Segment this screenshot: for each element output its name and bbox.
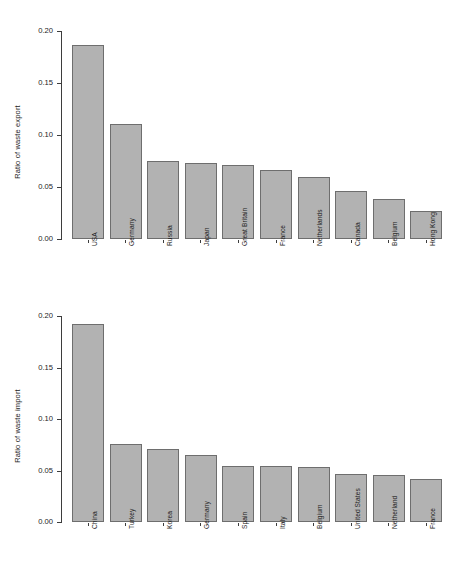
bar	[147, 161, 179, 239]
x-axis-tick	[388, 523, 389, 526]
y-axis-tick-label: 0.20	[27, 27, 53, 35]
bar	[335, 191, 367, 239]
y-axis-tick	[57, 522, 61, 523]
bar	[298, 467, 330, 522]
bar	[72, 324, 104, 522]
y-axis-tick	[57, 135, 61, 136]
chart-panel-waste-export: Ratio of waste export 0.000.050.100.150.…	[0, 0, 456, 290]
x-axis-tick	[125, 240, 126, 243]
y-axis-tick	[57, 239, 61, 240]
bar	[147, 449, 179, 522]
x-axis-tick	[313, 240, 314, 243]
x-axis-tick	[200, 523, 201, 526]
x-axis-tick	[125, 523, 126, 526]
plot-area-import: 0.000.050.100.150.20ChinaTurkeyKoreaGerm…	[0, 290, 456, 572]
x-axis-tick	[388, 240, 389, 243]
x-axis-tick-label: United States	[354, 488, 361, 529]
y-axis-tick-label: 0.00	[27, 235, 53, 243]
x-axis-tick-label: Netherlands	[316, 209, 323, 246]
x-axis-tick	[163, 240, 164, 243]
y-axis-tick	[57, 83, 61, 84]
bar	[410, 479, 442, 522]
y-axis-tick-label: 0.20	[27, 312, 53, 320]
x-axis-tick	[426, 523, 427, 526]
bar	[298, 177, 330, 239]
bar	[222, 165, 254, 239]
x-axis-tick	[276, 240, 277, 243]
x-axis-tick	[426, 240, 427, 243]
bar	[185, 163, 217, 239]
x-axis-tick	[313, 523, 314, 526]
y-axis-line	[61, 316, 62, 523]
x-axis-tick-label: France	[279, 225, 286, 246]
x-axis-tick	[276, 523, 277, 526]
bar	[222, 466, 254, 522]
bar	[185, 455, 217, 522]
x-axis-tick-label: Netherland	[391, 496, 398, 529]
y-axis-tick	[57, 471, 61, 472]
bar	[260, 466, 292, 522]
x-axis-tick-label: France	[429, 508, 436, 529]
chart-panel-waste-import: Ratio of waste import 0.000.050.100.150.…	[0, 290, 456, 572]
bar	[335, 474, 367, 522]
bar	[72, 45, 104, 239]
x-axis-tick	[351, 240, 352, 243]
y-axis-line	[61, 31, 62, 240]
plot-area-export: 0.000.050.100.150.20USAGermanyRussiaJapa…	[0, 0, 456, 290]
y-axis-tick-label: 0.05	[27, 467, 53, 475]
bar	[110, 444, 142, 522]
x-axis-tick-label: Great Britain	[241, 208, 248, 246]
x-axis-tick	[238, 523, 239, 526]
bar	[110, 124, 142, 239]
x-axis-tick	[351, 523, 352, 526]
y-axis-tick-label: 0.00	[27, 518, 53, 526]
x-axis-tick	[88, 240, 89, 243]
bar	[373, 199, 405, 239]
x-axis-tick-label: Russia	[166, 225, 173, 246]
y-axis-tick-label: 0.10	[27, 415, 53, 423]
chart-page: Ratio of waste export 0.000.050.100.150.…	[0, 0, 456, 572]
x-axis-tick	[200, 240, 201, 243]
y-axis-tick-label: 0.10	[27, 131, 53, 139]
y-axis-tick-label: 0.05	[27, 183, 53, 191]
x-axis-tick-label: Japan	[203, 228, 210, 246]
y-axis-tick-label: 0.15	[27, 79, 53, 87]
x-axis-tick-label: Hong Kong	[429, 212, 436, 246]
x-axis-tick	[163, 523, 164, 526]
x-axis-tick-label: Korea	[166, 511, 173, 529]
bar	[410, 211, 442, 239]
x-axis-tick-label: Belgium	[391, 221, 398, 246]
x-axis-tick-label: Belgium	[316, 504, 323, 529]
x-axis-tick-label: China	[91, 511, 98, 529]
x-axis-tick-label: Germany	[203, 501, 210, 529]
y-axis-tick	[57, 419, 61, 420]
x-axis-tick-label: Spain	[241, 512, 248, 529]
y-axis-tick-label: 0.15	[27, 364, 53, 372]
bar	[373, 475, 405, 522]
x-axis-tick-label: USA	[91, 232, 98, 246]
x-axis-tick-label: Italy	[279, 516, 286, 529]
y-axis-tick	[57, 187, 61, 188]
bar	[260, 170, 292, 239]
x-axis-tick-label: Turkey	[128, 508, 135, 529]
y-axis-tick	[57, 368, 61, 369]
y-axis-tick	[57, 31, 61, 32]
y-axis-tick	[57, 316, 61, 317]
x-axis-tick-label: Canada	[354, 222, 361, 246]
x-axis-tick	[88, 523, 89, 526]
x-axis-tick	[238, 240, 239, 243]
x-axis-tick-label: Germany	[128, 218, 135, 246]
